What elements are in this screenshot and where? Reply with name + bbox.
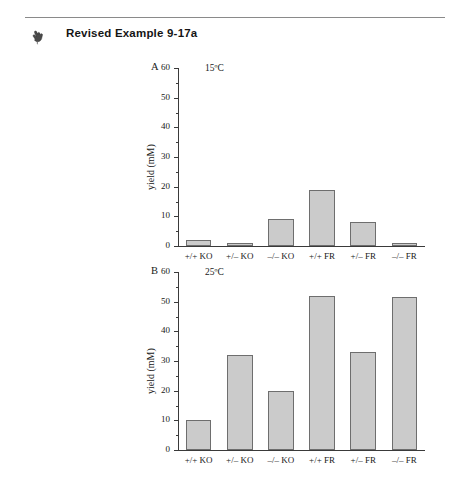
bar-a-1 [227, 243, 253, 246]
panel-b-plot-area: 0102030405060+/+ KO+/– KO–/– KO+/+ FR+/–… [178, 266, 426, 456]
x-category-label-a-2: –/– KO [260, 251, 301, 261]
y-tick-label-b-60: 60 [148, 266, 170, 276]
panel-b-y-axis [178, 272, 179, 450]
x-category-label-b-3: +/+ FR [302, 455, 343, 465]
y-tick-b-50 [174, 302, 178, 303]
x-category-label-b-2: –/– KO [260, 455, 301, 465]
y-tick-b-0 [174, 450, 178, 451]
bar-b-2 [268, 391, 294, 450]
chart-panel-b: B 25ºC yield (mM) 0102030405060+/+ KO+/–… [0, 0, 467, 215]
x-category-label-b-5: –/– FR [384, 455, 425, 465]
bar-b-4 [350, 352, 376, 450]
bar-b-5 [392, 297, 418, 450]
y-minor-tick-b-25 [176, 376, 179, 377]
y-minor-tick-b-15 [176, 406, 179, 407]
y-tick-label-b-0: 0 [148, 444, 170, 454]
panel-b-x-axis [178, 450, 425, 451]
bar-b-0 [186, 420, 212, 450]
x-category-label-a-1: +/– KO [219, 251, 260, 261]
panel-a-x-axis [178, 246, 425, 247]
bar-a-0 [186, 240, 212, 246]
x-category-label-b-4: +/– FR [343, 455, 384, 465]
y-tick-label-b-10: 10 [148, 414, 170, 424]
y-minor-tick-b-45 [176, 317, 179, 318]
y-tick-a-0 [174, 246, 178, 247]
y-tick-b-20 [174, 391, 178, 392]
bar-b-3 [309, 296, 335, 450]
y-tick-label-b-30: 30 [148, 355, 170, 365]
y-tick-a-10 [174, 216, 178, 217]
y-tick-b-10 [174, 420, 178, 421]
bar-a-4 [350, 222, 376, 246]
y-tick-label-b-40: 40 [148, 325, 170, 335]
y-tick-label-b-50: 50 [148, 296, 170, 306]
bar-a-2 [268, 219, 294, 246]
y-minor-tick-a-5 [176, 231, 179, 232]
bar-a-5 [392, 243, 418, 246]
x-category-label-a-3: +/+ FR [302, 251, 343, 261]
x-category-label-a-0: +/+ KO [178, 251, 219, 261]
y-minor-tick-b-5 [176, 435, 179, 436]
page-bottom-caption [80, 474, 410, 484]
y-minor-tick-b-55 [176, 287, 179, 288]
bar-b-1 [227, 355, 253, 450]
y-tick-b-60 [174, 272, 178, 273]
x-category-label-b-0: +/+ KO [178, 455, 219, 465]
y-minor-tick-b-35 [176, 346, 179, 347]
x-category-label-a-5: –/– FR [384, 251, 425, 261]
x-category-label-a-4: +/– FR [343, 251, 384, 261]
y-tick-b-40 [174, 331, 178, 332]
y-tick-label-a-0: 0 [148, 240, 170, 250]
y-tick-b-30 [174, 361, 178, 362]
y-tick-label-b-20: 20 [148, 385, 170, 395]
x-category-label-b-1: +/– KO [219, 455, 260, 465]
